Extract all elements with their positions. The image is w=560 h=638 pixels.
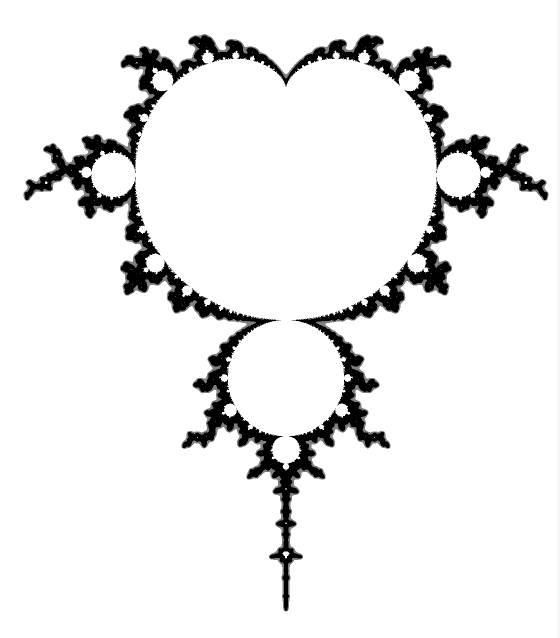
mandelbrot-image	[0, 0, 560, 638]
right-edge-shade	[556, 0, 560, 638]
